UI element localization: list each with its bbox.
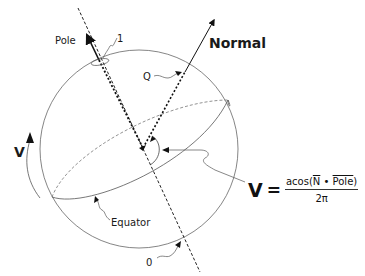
pole-marker-label: 1 [117, 34, 123, 44]
zero-squiggle [157, 246, 178, 258]
equator-label: Equator [111, 218, 150, 228]
q-squiggle [154, 73, 179, 78]
formula-equals: = [267, 180, 281, 200]
formula-denominator: 2π [315, 190, 327, 204]
v-axis-label: V [14, 145, 25, 159]
normal-dashed [143, 72, 185, 148]
pole-squiggle [103, 38, 117, 58]
formula-fraction: acos(N • Pole) 2π [285, 176, 358, 204]
zero-marker-label: 0 [146, 258, 152, 268]
pole-arrow [87, 35, 99, 60]
equator-front [52, 100, 230, 199]
sphere-diagram: Pole 1 Normal Q V Equator 0 V = acos(N •… [0, 0, 365, 276]
pole-label: Pole [55, 36, 76, 46]
normal-label: Normal [209, 36, 266, 50]
formula-lhs: V [248, 179, 263, 201]
v-formula: V = acos(N • Pole) 2π [248, 176, 358, 204]
pole-axis-inner [99, 60, 143, 148]
pole-ellipse [91, 57, 110, 67]
formula-leader [168, 150, 245, 182]
formula-numerator: acos(N • Pole) [285, 176, 358, 190]
equator-squiggle [96, 198, 110, 220]
q-label: Q [143, 72, 151, 82]
v-rotation-arc [27, 140, 40, 198]
